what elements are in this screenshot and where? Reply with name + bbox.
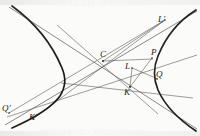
chord-K-to-L: [130, 68, 132, 87]
label-Q: Q: [156, 70, 163, 79]
label-K: K: [124, 88, 130, 97]
chord-K-to-P: [130, 58, 152, 87]
label-P: P: [151, 48, 157, 57]
label-C: C: [100, 50, 106, 59]
chord-Qprime-to-Lprime: [9, 20, 165, 113]
label-Q-prime: Q': [2, 104, 11, 113]
geometry-figure: THE CONIC SECTIONS PROJECTIVE GEOMETRY: [0, 0, 200, 136]
label-L: L: [125, 62, 130, 71]
point-C: [102, 60, 104, 62]
hyperbola-left-branch: [12, 6, 65, 128]
label-L-prime: L': [158, 15, 165, 24]
label-K-prime: K': [29, 113, 37, 122]
point-L: [131, 67, 133, 69]
asymptote-descending: [9, 7, 197, 129]
chord-upper-left-through-C-to-K: [57, 25, 158, 114]
point-P: [151, 57, 153, 59]
